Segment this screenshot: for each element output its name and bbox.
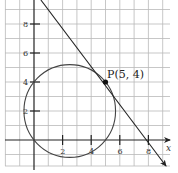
x-tick-label: 2 <box>60 147 65 156</box>
x-axis-label: x <box>166 143 171 153</box>
x-tick-label: 8 <box>146 147 151 156</box>
grid <box>5 0 170 166</box>
y-ticks: 2 4 6 8 <box>23 20 40 116</box>
coordinate-plane: 2 4 6 8 x 2 4 6 8 P(5, 4) <box>0 0 178 173</box>
y-tick-label: 4 <box>23 78 28 87</box>
point-p-label: P(5, 4) <box>107 68 144 81</box>
x-tick-label: 6 <box>118 147 123 156</box>
y-tick-label: 8 <box>23 20 28 29</box>
y-tick-label: 6 <box>23 49 28 58</box>
